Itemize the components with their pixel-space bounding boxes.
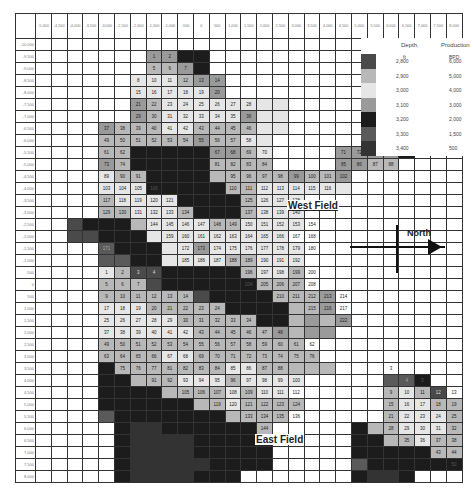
grid-cell: 26 — [209, 99, 225, 111]
grid-cell: 186 — [193, 255, 209, 267]
grid-cell: 30 — [178, 315, 194, 327]
grid-cell — [415, 351, 431, 363]
grid-cell: 115 — [304, 183, 320, 195]
grid-cell: 25 — [99, 315, 115, 327]
east-field-label: East Field — [255, 434, 304, 445]
grid-cell — [272, 63, 288, 75]
x-axis-label: -4,500 — [51, 14, 67, 39]
grid-cell — [320, 459, 336, 471]
grid-cell — [83, 279, 99, 291]
y-axis-label: 1,000 — [16, 303, 36, 315]
grid-cell: 17 — [415, 399, 431, 411]
grid-cell: 54 — [178, 339, 194, 351]
grid-cell — [272, 123, 288, 135]
grid-cell — [225, 423, 241, 435]
grid-cell — [336, 243, 352, 255]
grid-cell — [257, 291, 273, 303]
grid-cell: 163 — [225, 231, 241, 243]
grid-cell: 11 — [130, 291, 146, 303]
legend-entry: 3,1003,000 — [361, 98, 466, 113]
grid-cell — [446, 267, 462, 279]
grid-cell: 152 — [272, 219, 288, 231]
grid-cell: 38 — [114, 123, 130, 135]
grid-cell — [304, 135, 320, 147]
grid-cell — [36, 387, 52, 399]
grid-cell — [383, 339, 399, 351]
grid-cell — [51, 51, 67, 63]
grid-cell — [99, 63, 115, 75]
grid-cell: 147 — [193, 219, 209, 231]
grid-cell — [320, 351, 336, 363]
grid-cell — [415, 339, 431, 351]
grid-cell — [114, 435, 130, 447]
grid-cell — [51, 39, 67, 51]
legend-entry: 2,9005,000 — [361, 69, 466, 84]
grid-cell — [162, 171, 178, 183]
grid-cell — [367, 387, 383, 399]
grid-cell — [162, 243, 178, 255]
grid-cell — [304, 123, 320, 135]
grid-cell: 206 — [272, 279, 288, 291]
grid-cell: 144 — [146, 219, 162, 231]
grid-cell: 59 — [257, 339, 273, 351]
grid-cell — [51, 471, 67, 483]
grid-cell — [430, 327, 446, 339]
grid-cell — [367, 183, 383, 195]
grid-cell — [193, 435, 209, 447]
grid-cell: 148 — [209, 219, 225, 231]
grid-cell — [415, 363, 431, 375]
grid-cell — [99, 447, 115, 459]
grid-cell — [351, 351, 367, 363]
grid-cell — [146, 411, 162, 423]
grid-cell — [367, 363, 383, 375]
grid-cell: 133 — [162, 207, 178, 219]
grid-cell — [178, 279, 194, 291]
grid-cell — [51, 75, 67, 87]
grid-cell: 222 — [336, 315, 352, 327]
grid-cell — [304, 411, 320, 423]
grid-cell — [83, 399, 99, 411]
grid-cell — [178, 39, 194, 51]
grid-cell — [367, 459, 383, 471]
grid-cell — [383, 435, 399, 447]
grid-cell — [67, 327, 83, 339]
grid-cell — [36, 255, 52, 267]
grid-cell — [288, 159, 304, 171]
grid-cell: 13 — [446, 387, 462, 399]
grid-cell — [320, 267, 336, 279]
grid-cell — [67, 87, 83, 99]
grid-cell — [83, 363, 99, 375]
grid-cell — [162, 183, 178, 195]
grid-cell — [209, 207, 225, 219]
grid-cell: 81 — [162, 363, 178, 375]
y-axis-label: -4,500 — [16, 171, 36, 183]
grid-cell — [399, 291, 415, 303]
grid-cell — [399, 447, 415, 459]
grid-cell: 191 — [272, 255, 288, 267]
grid-cell — [399, 459, 415, 471]
grid-cell: 97 — [241, 375, 257, 387]
grid-cell — [99, 99, 115, 111]
grid-cell — [178, 171, 194, 183]
grid-cell: 188 — [225, 255, 241, 267]
grid-cell — [83, 135, 99, 147]
y-axis-label: -7,500 — [16, 99, 36, 111]
grid-cell — [446, 375, 462, 387]
grid-cell: 129 — [99, 207, 115, 219]
grid-cell — [351, 327, 367, 339]
grid-cell — [336, 459, 352, 471]
grid-cell: 137 — [241, 207, 257, 219]
grid-cell — [99, 111, 115, 123]
grid-cell — [351, 387, 367, 399]
grid-cell — [367, 423, 383, 435]
grid-cell: 110 — [225, 183, 241, 195]
grid-cell: 75 — [114, 363, 130, 375]
grid-cell: 94 — [193, 375, 209, 387]
grid-cell — [336, 63, 352, 75]
grid-cell — [162, 447, 178, 459]
grid-cell: 6 — [114, 279, 130, 291]
y-axis-label: -8,500 — [16, 75, 36, 87]
grid-cell: 118 — [114, 195, 130, 207]
x-axis-label: -1,500 — [146, 14, 162, 39]
grid-cell: 200 — [304, 267, 320, 279]
